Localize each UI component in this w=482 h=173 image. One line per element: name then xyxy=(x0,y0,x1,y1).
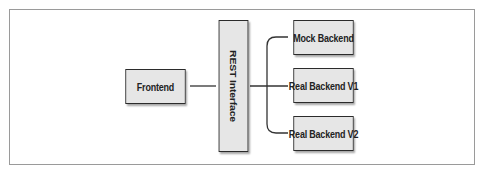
mock-backend-node: Mock Backend xyxy=(293,20,353,55)
rest-interface-label: REST Interface xyxy=(228,50,238,122)
real-backend-v2-node: Real Backend V2 xyxy=(293,116,353,151)
real-backend-v1-node: Real Backend V1 xyxy=(293,68,353,103)
real-backend-v1-label: Real Backend V1 xyxy=(289,80,358,92)
frontend-node: Frontend xyxy=(125,69,185,104)
edge-rest-mock-v2 xyxy=(267,37,288,133)
real-backend-v2-label: Real Backend V2 xyxy=(289,128,358,140)
frontend-label: Frontend xyxy=(137,81,174,93)
mock-backend-label: Mock Backend xyxy=(293,32,353,44)
rest-interface-node: REST Interface xyxy=(219,20,249,152)
